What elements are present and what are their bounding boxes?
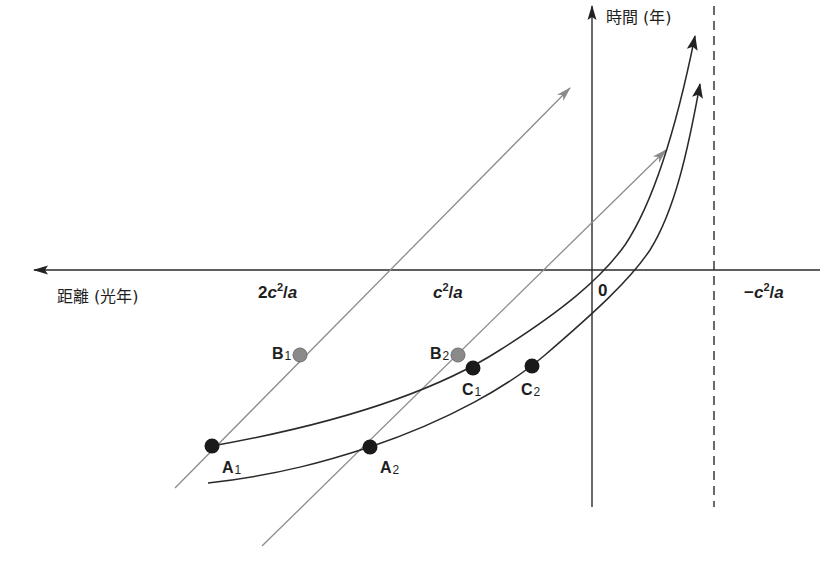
point-letter: B	[430, 345, 442, 362]
y-axis-label: 時間 (年)	[606, 10, 672, 26]
point-A2	[363, 440, 378, 455]
point-sub: 1	[285, 349, 292, 363]
tick-label-c2-over-a: c2/a	[433, 282, 463, 301]
point-letter: B	[272, 345, 284, 362]
point-letter: A	[380, 459, 392, 476]
label-C2: C2	[521, 382, 540, 398]
point-letter: C	[462, 381, 474, 398]
light-ray-1	[175, 88, 570, 488]
point-letter: C	[521, 381, 533, 398]
tick-den: a	[774, 283, 783, 302]
light-ray-2	[262, 150, 666, 546]
tick-label-zero: 0	[598, 282, 607, 299]
tick-den: a	[288, 283, 297, 302]
label-A1: A1	[222, 460, 241, 476]
tick-label-2c2-over-a: 2c2/a	[258, 282, 297, 301]
point-B1	[293, 348, 307, 362]
point-C1	[466, 361, 481, 376]
point-sub: 1	[235, 463, 242, 477]
tick-var: c	[754, 283, 763, 302]
point-letter: A	[222, 459, 234, 476]
label-A2: A2	[380, 460, 399, 476]
point-C2	[525, 359, 540, 374]
tick-var: c	[267, 283, 276, 302]
x-axis-label: 距離 (光年)	[57, 289, 139, 305]
tick-prefix: −	[744, 283, 754, 302]
tick-den: a	[453, 283, 462, 302]
tick-label-neg-c2-over-a: −c2/a	[744, 282, 784, 301]
point-sub: 2	[393, 463, 400, 477]
worldline-curve-1	[212, 36, 695, 446]
point-sub: 2	[443, 349, 450, 363]
label-C1: C1	[462, 382, 481, 398]
point-B2	[451, 348, 465, 362]
point-A1	[205, 439, 220, 454]
point-sub: 1	[475, 385, 482, 399]
label-B1: B1	[272, 346, 291, 362]
label-B2: B2	[430, 346, 449, 362]
point-sub: 2	[534, 385, 541, 399]
